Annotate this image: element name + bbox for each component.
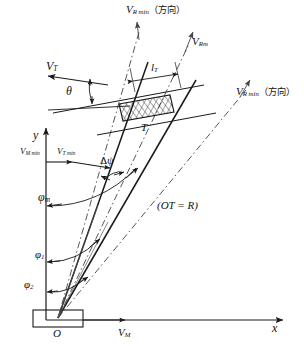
dashed-ray-r-min-right [58, 90, 246, 318]
label-v-m-min: VM min [20, 147, 40, 157]
figure-canvas: VR min（方向） VRm VR min（方向） VT θ lT T VM m… [0, 0, 304, 346]
label-v-r-min-top: VR min（方向） [126, 4, 185, 16]
label-v-t: VT [46, 60, 57, 73]
phi-1-arc [49, 240, 98, 262]
label-theta: θ [66, 85, 72, 97]
label-v-t-min: VT min [57, 147, 75, 157]
label-target-point-t: T [141, 122, 147, 133]
label-y-axis: y [33, 129, 38, 141]
label-delta-psi: Δψ [100, 155, 114, 166]
label-v-rel: VRm [192, 36, 208, 48]
delta-psi-tick-left [101, 176, 110, 180]
label-origin-o: O [53, 328, 61, 339]
phi-m-arc [49, 168, 136, 206]
axis-group [46, 128, 283, 320]
vector-diagram-svg [0, 0, 304, 346]
vt-vector [48, 76, 108, 85]
label-phi-2: φ2 [24, 279, 34, 291]
lt-dimension-line [133, 74, 178, 81]
label-v-m: VM [118, 327, 130, 339]
fan-ray-b [58, 222, 108, 318]
phi-1-arc-tick-start [47, 261, 60, 262]
lt-extension-left [130, 68, 135, 92]
label-v-r-min-right: VR min（方向） [236, 86, 295, 98]
lt-extension-right [175, 62, 181, 88]
phi-1-arc-tick-end [90, 239, 100, 247]
origin-platform-rect [33, 310, 83, 327]
label-ot-equals-r: (OT = R) [157, 200, 198, 211]
dashed-ray-v-rel [58, 44, 189, 318]
label-l-t: lT [151, 62, 158, 74]
label-phi-1: φ1 [35, 249, 45, 261]
fan-ray-a [58, 205, 98, 318]
delta-psi-arc [104, 172, 118, 180]
label-phi-m: φm [38, 191, 50, 204]
label-x-axis: x [272, 322, 277, 334]
dashed-ray-r-min-top [58, 32, 139, 318]
